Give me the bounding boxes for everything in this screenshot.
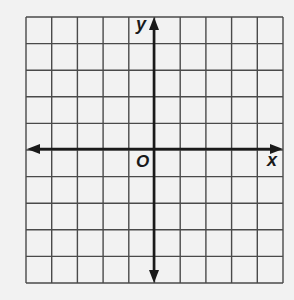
origin-label: O [136, 152, 149, 172]
coordinate-grid [0, 0, 294, 300]
y-axis-up-arrow-icon [149, 17, 159, 30]
x-axis-left-arrow-icon [27, 144, 40, 154]
y-axis-down-arrow-icon [149, 270, 159, 283]
x-axis-label: x [267, 150, 277, 171]
y-axis-label: y [136, 14, 146, 35]
